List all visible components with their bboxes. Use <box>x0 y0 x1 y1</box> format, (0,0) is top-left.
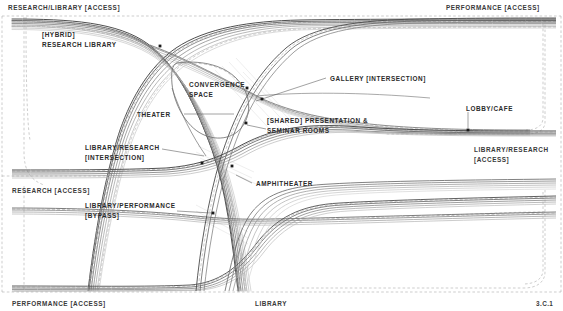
label-library-research-intersection: LIBRARY/RESEARCH [INTERSECTION] <box>85 143 160 162</box>
label-hybrid-research-library: [HYBRID] RESEARCH LIBRARY <box>42 30 117 49</box>
flow-bundle-library-bottom <box>225 179 556 291</box>
label-sheet-number: 3.C.1 <box>536 299 553 309</box>
node-library-performance-bypass <box>212 212 215 215</box>
label-performance-access-top: PERFORMANCE [ACCESS] <box>446 3 540 13</box>
leader-amphitheater-line <box>236 175 252 183</box>
label-research-access-left: RESEARCH [ACCESS] <box>12 186 90 196</box>
boundary-left-upper-inner <box>26 17 30 140</box>
label-library-performance-bypass: LIBRARY/PERFORMANCE [BYPASS] <box>85 201 175 220</box>
boundary-right-upper-inner <box>526 24 543 130</box>
label-research-library-access: RESEARCH/LIBRARY [ACCESS] <box>8 3 120 13</box>
node-convergence-space <box>246 87 249 90</box>
diagram-sheet: RESEARCH/LIBRARY [ACCESS] PERFORMANCE [A… <box>0 0 563 311</box>
label-convergence-space: CONVERGENCE SPACE <box>189 80 245 99</box>
leader-gallery-line <box>256 78 326 101</box>
boundary-right-lower <box>300 190 545 288</box>
label-performance-access-bottom: PERFORMANCE [ACCESS] <box>12 299 106 309</box>
node-hybrid-research-library <box>159 45 162 48</box>
node-shared-presentation <box>245 122 248 125</box>
label-lobby-cafe: LOBBY/CAFE <box>466 104 513 114</box>
node-amphitheater <box>231 165 234 168</box>
leader-bypass-line <box>177 211 211 213</box>
node-library-research-intersection <box>201 162 204 165</box>
label-library-bottom: LIBRARY <box>255 299 287 309</box>
node-gallery-intersection <box>261 98 264 101</box>
label-amphitheater: AMPHITHEATER <box>256 179 313 189</box>
leader-library-research-line <box>162 149 204 156</box>
label-library-research-access-right: LIBRARY/RESEARCH [ACCESS] <box>474 145 549 164</box>
label-shared-presentation-seminar: [SHARED] PRESENTATION & SEMINAR ROOMS <box>267 116 368 135</box>
node-lobby-cafe <box>467 129 470 132</box>
label-theater: THEATER <box>137 110 171 120</box>
leader-shared-presentation-line <box>247 125 266 129</box>
label-gallery-intersection: GALLERY [INTERSECTION] <box>330 74 426 84</box>
boundary-right-lower-inner <box>523 192 543 284</box>
